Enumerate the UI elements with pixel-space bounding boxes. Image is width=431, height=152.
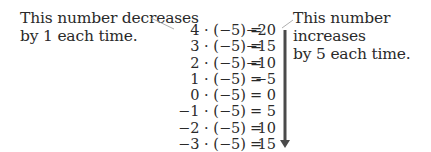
leader-line-left bbox=[151, 18, 174, 29]
down-arrow-icon bbox=[280, 30, 290, 148]
leader-line-right bbox=[282, 20, 293, 28]
diagram-overlay bbox=[0, 0, 431, 152]
